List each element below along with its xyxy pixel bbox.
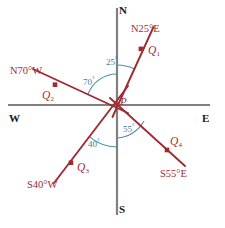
angle-label-25: 25° (106, 58, 118, 67)
ray-label-q4-letter: Q (170, 135, 178, 147)
angle-label-70: 70° (83, 78, 95, 87)
angle-value-55: 55 (123, 124, 132, 134)
cardinal-south-label: S (119, 204, 125, 215)
bearing-label-q4: S55°E (160, 169, 187, 180)
cardinal-north-label: N (119, 5, 127, 16)
bearing-label-q1: N25°E (131, 24, 160, 35)
ray-label-q3: Q3 (77, 162, 89, 174)
angle-label-40: 40° (88, 140, 100, 149)
ray-label-q4-subscript: 4 (179, 141, 183, 149)
degree-symbol-icon-55: ° (132, 122, 135, 129)
angle-arc-25 (117, 65, 134, 69)
diagram-canvas (0, 0, 225, 228)
ray-q1 (113, 27, 154, 117)
center-point-p (115, 103, 119, 107)
marker-q1 (139, 47, 144, 52)
marker-q4 (165, 148, 170, 153)
compass-bearing-diagram: N S W E N25°E N70°W S40°W S55°E Q1 Q2 Q3… (0, 0, 225, 228)
degree-symbol-icon-70: ° (92, 75, 95, 82)
ray-label-q1-letter: Q (148, 44, 156, 56)
ray-label-q2-subscript: 2 (51, 95, 55, 103)
cardinal-west-label: W (9, 113, 20, 124)
bearing-label-q3: S40°W (27, 180, 57, 191)
cardinal-east-label: E (202, 113, 209, 124)
ray-label-q3-letter: Q (77, 161, 85, 173)
point-p-label: P (120, 96, 127, 107)
marker-q2 (53, 82, 58, 87)
angle-value-25: 25 (106, 57, 115, 67)
ray-label-q2-letter: Q (42, 89, 50, 101)
ray-label-q1-subscript: 1 (157, 50, 161, 58)
angle-label-55: 55° (123, 125, 135, 134)
degree-symbol-icon-25: ° (115, 55, 118, 62)
ray-label-q3-subscript: 3 (86, 167, 90, 175)
bearing-label-q2: N70°W (10, 66, 42, 77)
marker-q3 (69, 160, 74, 165)
angle-value-70: 70 (83, 77, 92, 87)
ray-label-q2: Q2 (42, 90, 54, 102)
ray-label-q1: Q1 (148, 45, 160, 57)
ray-label-q4: Q4 (170, 136, 182, 148)
angle-value-40: 40 (88, 139, 97, 149)
degree-symbol-icon-40: ° (97, 137, 100, 144)
ray-q4 (110, 98, 185, 166)
